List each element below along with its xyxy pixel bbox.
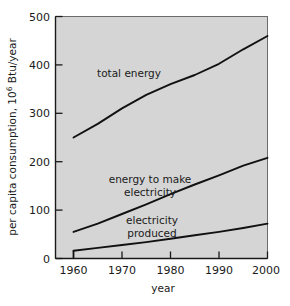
annotation-energy-to-make-electricity-line1: energy to make — [109, 173, 192, 185]
y-tick-label-200: 200 — [29, 156, 50, 169]
y-tick-labels: 500 400 300 200 100 0 — [29, 11, 50, 266]
annotation-total-energy: total energy — [97, 67, 161, 79]
annotation-energy-to-make-electricity-line2: electricity — [124, 186, 176, 198]
x-tick-label-2000: 2000 — [252, 264, 280, 277]
x-tick-label-1960: 1960 — [60, 264, 88, 277]
y-tick-label-500: 500 — [29, 11, 50, 24]
figure-container: 500 400 300 200 100 0 1960 1970 1980 199… — [0, 0, 290, 306]
x-axis-title: year — [151, 282, 175, 294]
annotation-electricity-produced-line2: produced — [127, 227, 176, 239]
y-axis-title: per capita consumption, 106 Btu/year — [5, 38, 18, 236]
y-tick-label-0: 0 — [43, 253, 50, 266]
x-tick-label-1990: 1990 — [205, 264, 233, 277]
x-tick-labels: 1960 1970 1980 1990 2000 — [60, 264, 281, 277]
x-tick-label-1980: 1980 — [157, 264, 185, 277]
y-tick-label-100: 100 — [29, 204, 50, 217]
y-tick-label-300: 300 — [29, 107, 50, 120]
line-chart: 500 400 300 200 100 0 1960 1970 1980 199… — [0, 0, 290, 306]
svg-text:per capita consumption, 106 Bt: per capita consumption, 106 Btu/year — [5, 38, 18, 236]
x-tick-label-1970: 1970 — [108, 264, 136, 277]
y-axis-title-tail: Btu/year — [6, 38, 18, 87]
annotation-electricity-produced-line1: electricity — [126, 214, 178, 226]
y-tick-label-400: 400 — [29, 59, 50, 72]
y-axis-title-main: per capita consumption, 10 — [6, 91, 18, 235]
